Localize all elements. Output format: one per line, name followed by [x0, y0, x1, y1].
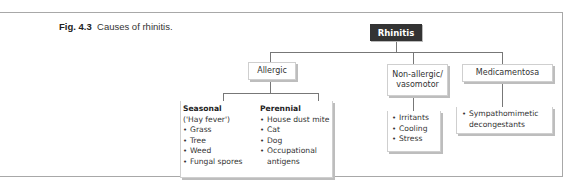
list-item: Cat [260, 125, 329, 136]
list-item: Weed [183, 146, 243, 157]
list-item: Dog [260, 136, 329, 147]
root-label: Rhinitis [378, 28, 415, 38]
nonallergic-list: Irritants Cooling Stress [392, 113, 429, 145]
connector-nonallergic-down [413, 96, 414, 111]
connector-allergic-horizontal [223, 93, 318, 94]
list-item: Grass [183, 125, 243, 136]
connector-root-down [396, 40, 397, 52]
list-item: Irritants [392, 113, 429, 124]
seasonal-subheading: ('Hay fever') [183, 115, 243, 126]
list-item: Occupational [260, 146, 329, 157]
connector-to-medicamentosa [502, 52, 503, 64]
nonallergic-label-line1: Non-allergic/ [392, 70, 443, 80]
figure-label: Fig. 4.3 [59, 21, 92, 32]
root-node-rhinitis: Rhinitis [370, 24, 422, 41]
list-item: Fungal spores [183, 157, 243, 168]
seasonal-list: Seasonal ('Hay fever') Grass Tree Weed F… [183, 104, 243, 168]
frame-top-rule [0, 12, 563, 13]
nonallergic-label-line2: vasomotor [396, 80, 439, 90]
figure-title: Causes of rhinitis. [97, 21, 173, 32]
list-item: Sympathomimetic [462, 109, 538, 120]
connector-main-horizontal [270, 52, 503, 53]
figure-caption: Fig. 4.3 Causes of rhinitis. [59, 21, 173, 32]
connector-allergic-down [270, 80, 271, 93]
connector-to-nonallergic [413, 52, 414, 64]
list-item-continuation: decongestants [462, 120, 538, 131]
perennial-list: Perennial House dust mite Cat Dog Occupa… [260, 104, 329, 168]
list-item: Cooling [392, 124, 429, 135]
medicamentosa-label: Medicamentosa [476, 68, 539, 78]
allergic-label: Allergic [257, 66, 287, 76]
connector-to-perennial [318, 93, 319, 101]
list-item: Stress [392, 134, 429, 145]
list-item: Tree [183, 136, 243, 147]
category-node-medicamentosa: Medicamentosa [462, 64, 553, 82]
medicamentosa-list: Sympathomimetic decongestants [462, 109, 538, 130]
list-item: House dust mite [260, 115, 329, 126]
list-item-continuation: antigens [260, 157, 329, 168]
connector-medicamentosa-down [502, 82, 503, 107]
perennial-heading: Perennial [260, 104, 329, 115]
connector-to-seasonal [223, 93, 224, 101]
category-node-allergic: Allergic [248, 62, 296, 80]
category-node-nonallergic: Non-allergic/ vasomotor [387, 64, 448, 96]
connector-to-allergic [270, 52, 271, 62]
frame-right-rule [562, 12, 563, 177]
seasonal-heading: Seasonal [183, 104, 243, 115]
